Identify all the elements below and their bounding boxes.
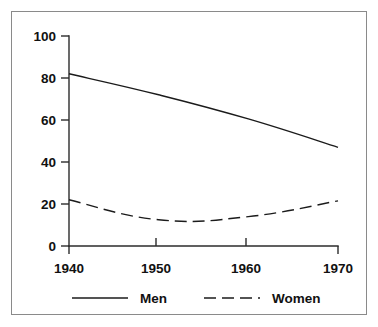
y-tick-label-20: 20 — [41, 197, 56, 212]
chart-legend: Men Women — [72, 291, 321, 306]
y-tick-label-80: 80 — [41, 71, 56, 86]
series-line-men — [69, 74, 338, 148]
x-tick-label-1960: 1960 — [231, 261, 261, 276]
y-tick-label-40: 40 — [41, 155, 56, 170]
y-tick-label-100: 100 — [33, 29, 56, 44]
legend-label-women: Women — [272, 291, 321, 306]
x-tick-label-1970: 1970 — [323, 261, 353, 276]
x-tick-label-1940: 1940 — [54, 261, 84, 276]
y-tick-label-60: 60 — [41, 113, 56, 128]
legend-label-men: Men — [140, 291, 167, 306]
y-tick-label-0: 0 — [48, 239, 56, 254]
series-line-women — [69, 200, 338, 222]
chart-frame: 100 80 60 40 20 0 1940 1950 1960 1970 Me… — [11, 11, 367, 315]
line-chart: 100 80 60 40 20 0 1940 1950 1960 1970 Me… — [12, 12, 368, 316]
y-tick-marks — [61, 36, 69, 246]
x-tick-label-1950: 1950 — [141, 261, 171, 276]
